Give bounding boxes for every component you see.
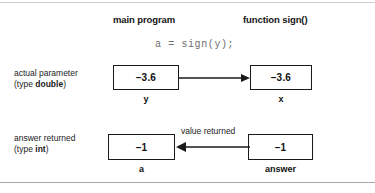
row-label-answer-returned-text: answer returned: [14, 133, 75, 143]
variable-value-answer: –1: [275, 142, 287, 153]
variable-name-y: y: [113, 94, 179, 104]
arrow-parameter-pass-icon: [178, 68, 252, 88]
row-label-answer-returned-type-close: ): [46, 144, 49, 154]
variable-name-x: x: [250, 94, 312, 104]
row-label-answer-returned: answer returned (type int): [14, 133, 75, 155]
bottom-divider-rule: [0, 182, 375, 183]
column-header-main-program: main program: [113, 14, 175, 25]
variable-value-x: –3.6: [271, 72, 291, 83]
row-label-answer-returned-type-open: (type: [14, 144, 35, 154]
variable-value-y: –3.6: [136, 72, 156, 83]
variable-box-answer: –1: [248, 134, 313, 160]
column-header-function-sign: function sign(): [243, 14, 307, 25]
arrow-value-returned-icon: [174, 137, 250, 157]
variable-box-x: –3.6: [250, 65, 312, 90]
top-divider-rule: [0, 2, 375, 3]
variable-name-a: a: [108, 164, 175, 174]
row-label-actual-parameter: actual parameter (type double): [14, 68, 78, 90]
diagram-canvas: main program function sign() a = sign(y)…: [0, 0, 375, 193]
arrow-label-value-returned: value returned: [181, 126, 235, 136]
code-statement: a = sign(y);: [155, 39, 234, 50]
variable-box-y: –3.6: [113, 65, 179, 90]
row-label-actual-parameter-type-open: (type: [14, 79, 35, 89]
row-label-actual-parameter-type-close: ): [63, 79, 66, 89]
variable-box-a: –1: [108, 134, 175, 160]
variable-name-answer: answer: [248, 164, 313, 174]
row-label-actual-parameter-type: double: [35, 79, 63, 89]
row-label-actual-parameter-text: actual parameter: [14, 68, 78, 78]
row-label-answer-returned-type: int: [35, 144, 45, 154]
variable-value-a: –1: [136, 142, 148, 153]
